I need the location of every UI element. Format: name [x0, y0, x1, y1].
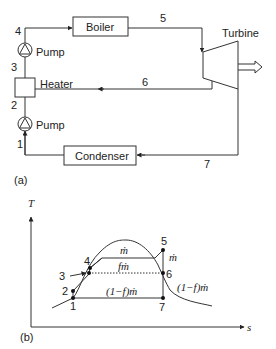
lower-pump-label: Pump: [36, 119, 65, 131]
ts-state-3-label: 3: [59, 270, 65, 282]
flow-label-right-lower: (1−f)ṁ: [177, 281, 208, 294]
boiler-label: Boiler: [86, 21, 114, 33]
work-output-arrow: [238, 61, 262, 73]
dot-7: [161, 296, 165, 300]
s-axis-label: s: [247, 321, 251, 333]
caption-a: (a): [14, 174, 27, 186]
regenerative-rankine-cycle-figure: Boiler Turbine Heater Pump Pump Condense…: [0, 0, 276, 349]
state-5-label: 5: [160, 12, 166, 24]
dot-2: [71, 289, 75, 293]
state-6-label: 6: [142, 76, 148, 88]
flow-label-middle: fṁ: [118, 260, 129, 272]
ts-state-5-label: 5: [161, 235, 167, 247]
caption-b: (b): [20, 331, 33, 343]
dot-5: [161, 248, 165, 252]
pipe-6-extraction: [100, 81, 212, 89]
turbine-shape: [203, 41, 238, 89]
schematic-diagram: [15, 17, 262, 165]
condenser-label: Condenser: [75, 150, 129, 162]
flow-label-top: ṁ: [120, 244, 128, 256]
heater-box: [15, 78, 35, 97]
heater-label: Heater: [40, 78, 73, 90]
state-3-label: 3: [11, 61, 17, 73]
ts-state-1-label: 1: [70, 300, 76, 312]
pipe-7: [142, 89, 238, 155]
lower-pump-icon: [18, 117, 32, 131]
pipe-5: [128, 28, 202, 52]
pipe-condenser-to-pump: [25, 133, 64, 155]
ts-state-6-label: 6: [166, 268, 172, 280]
state-3-pointer: [70, 273, 86, 276]
turbine-label: Turbine: [222, 27, 259, 39]
ts-state-4-label: 4: [84, 255, 90, 267]
state-4-label: 4: [15, 25, 21, 37]
state-7-label: 7: [204, 158, 210, 170]
t-axis-label: T: [28, 197, 35, 209]
dot-6: [161, 271, 165, 275]
ts-state-2-label: 2: [62, 285, 68, 297]
ts-state-7-label: 7: [159, 301, 165, 313]
state-1-label: 1: [17, 138, 23, 150]
upper-pump-label: Pump: [36, 46, 65, 58]
saturation-dome: [73, 240, 212, 306]
flow-label-bottom: (1−f)ṁ: [106, 285, 137, 298]
dot-3: [87, 271, 91, 275]
upper-pump-icon: [18, 43, 32, 57]
state-2-label: 2: [11, 99, 17, 111]
flow-label-right-upper: ṁ: [169, 251, 177, 263]
